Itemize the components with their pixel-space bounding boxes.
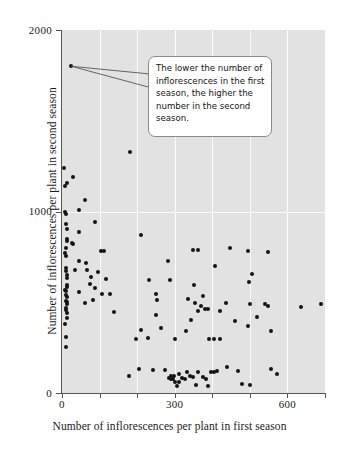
data-point [63,322,67,326]
data-point [71,175,75,179]
data-point [84,261,88,265]
data-point [248,302,252,306]
data-point [64,269,68,273]
x-axis-label: Number of inflorescences per plant in fi… [0,420,339,432]
x-axis-tick-label: 600 [279,399,296,410]
data-point [64,222,68,226]
data-point [147,278,151,282]
data-point [240,382,244,386]
data-point [166,259,170,263]
data-point [224,301,228,305]
data-point [77,290,81,294]
gridline-horizontal [62,212,325,213]
data-point [64,212,68,216]
data-point [139,233,143,237]
data-point [64,289,68,293]
data-point [64,335,68,339]
data-point [65,227,69,231]
data-point [218,309,222,313]
y-axis-tick-label: 2000 [29,25,52,36]
data-point [207,337,211,341]
data-point [65,316,69,320]
annotation-callout: The lower the number of inflorescences i… [148,56,272,137]
data-point [77,259,81,263]
x-axis-tick [250,393,251,398]
data-point [266,304,270,308]
data-point [64,254,68,258]
data-point [218,337,222,341]
data-point [194,383,198,387]
y-axis-label: Number of inflorescences per plant in se… [46,61,58,361]
data-point [85,268,89,272]
x-axis-tick [100,393,101,398]
data-point [186,297,190,301]
data-point [212,337,216,341]
x-axis-tick-label: 300 [166,399,183,410]
data-point [196,248,200,252]
x-axis-tick-label: 0 [59,399,65,410]
data-point [128,150,132,154]
data-point [89,275,93,279]
data-point [93,286,97,290]
data-point [204,377,208,381]
data-point [146,336,150,340]
data-point [225,365,229,369]
data-point [154,313,158,317]
x-axis-tick [212,393,213,398]
data-point [65,239,69,243]
data-point [64,345,68,349]
data-point [159,326,163,330]
data-point [154,292,158,296]
data-point [63,184,67,188]
data-point [183,377,187,381]
data-point [250,272,254,276]
data-point [83,301,87,305]
data-point [65,276,69,280]
data-point [173,337,177,341]
data-point [213,264,217,268]
x-axis-tick [325,393,326,398]
data-point [299,305,303,309]
data-point [93,220,97,224]
data-point [266,250,270,254]
data-point [151,368,155,372]
data-point [175,384,179,388]
data-point [172,374,176,378]
data-point [269,329,273,333]
data-point [137,367,141,371]
data-point [65,295,69,299]
data-point [246,249,250,253]
data-point [192,283,196,287]
data-point [77,208,81,212]
data-point [163,368,167,372]
data-point [255,315,259,319]
data-point [127,374,131,378]
data-point [108,292,112,296]
data-point [319,302,323,306]
data-point [246,324,250,328]
data-point [275,372,279,376]
data-point [193,301,197,305]
data-point [134,337,138,341]
data-point [248,383,252,387]
data-point [168,278,172,282]
data-point [191,248,195,252]
data-point [206,307,210,311]
data-point [196,309,200,313]
data-point [177,380,181,384]
data-point [77,230,81,234]
data-point [233,319,237,323]
x-axis-line [61,393,326,394]
data-point [184,329,188,333]
data-point [189,318,193,322]
data-point [100,292,104,296]
data-point [83,198,87,202]
data-point [185,370,189,374]
data-point [236,369,240,373]
data-point [65,311,69,315]
data-point [191,375,195,379]
data-point [64,246,68,250]
data-point [228,246,232,250]
data-point [88,282,92,286]
scatter-plot-figure: 0100020000300600 Number of inflorescence… [0,0,339,449]
